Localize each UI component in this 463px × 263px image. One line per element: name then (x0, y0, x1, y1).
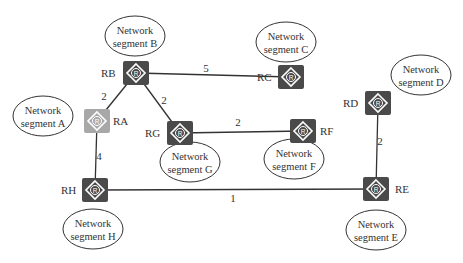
segment-label-line2: segment C (264, 44, 309, 55)
router-re: RRE (363, 177, 409, 201)
link-line (95, 189, 376, 190)
segment-ellipse (63, 209, 123, 249)
router-label: RH (61, 184, 76, 196)
link-rg-rf: 2 (180, 116, 303, 133)
router-label: RE (395, 183, 409, 195)
link-cost-label: 2 (161, 94, 167, 106)
link-cost-label: 5 (203, 62, 209, 74)
svg-text:R: R (178, 130, 183, 137)
svg-text:R: R (134, 70, 139, 77)
svg-text:R: R (376, 100, 381, 107)
network-segment-b: Networksegment B (105, 16, 165, 56)
segment-label-line1: Network (268, 31, 305, 42)
router-rh: RRH (61, 178, 108, 202)
link-cost-label: 2 (377, 135, 383, 147)
router-rf: RRF (290, 119, 333, 143)
segment-label-line2: segment D (398, 77, 444, 88)
link-line (180, 131, 303, 133)
segment-label-line1: Network (117, 25, 154, 36)
link-cost-label: 2 (235, 116, 241, 128)
router-label: RB (101, 67, 116, 79)
segment-ellipse (105, 16, 165, 56)
segment-ellipse (391, 55, 451, 95)
segment-label-line1: Network (403, 64, 440, 75)
segment-label-line1: Network (25, 105, 62, 116)
segment-label-line2: segment B (113, 38, 158, 49)
network-segment-a: Networksegment A (13, 96, 73, 136)
segment-label-line2: segment F (272, 161, 316, 172)
segment-label-line2: segment A (21, 118, 66, 129)
link-cost-label: 2 (101, 90, 107, 102)
link-rd-re: 2 (376, 103, 383, 189)
svg-text:R: R (374, 186, 379, 193)
segment-ellipse (13, 96, 73, 136)
segment-label-line1: Network (75, 218, 112, 229)
segment-label-line1: Network (276, 148, 313, 159)
router-label: RD (343, 97, 358, 109)
router-label: RA (113, 115, 128, 127)
network-segment-d: Networksegment D (391, 55, 451, 95)
network-segment-c: Networksegment C (256, 22, 316, 62)
router-label: RC (257, 71, 272, 83)
segment-ellipse (264, 139, 324, 179)
link-cost-label: 1 (230, 192, 236, 204)
network-segment-g: Networksegment G (160, 142, 220, 182)
segment-ellipse (160, 142, 220, 182)
svg-text:R: R (95, 118, 100, 125)
router-rc: RRC (257, 65, 304, 89)
router-rb: RRB (101, 61, 149, 85)
network-segment-f: Networksegment F (264, 139, 324, 179)
segment-label-line1: Network (358, 219, 395, 230)
segment-ellipse (346, 210, 406, 250)
segment-label-line2: segment E (354, 232, 398, 243)
router-rg: RRG (145, 121, 193, 145)
link-cost-label: 4 (96, 150, 102, 162)
link-rh-re: 1 (95, 189, 376, 204)
segment-ellipse (256, 22, 316, 62)
segment-label-line2: segment H (70, 231, 116, 242)
network-topology-diagram: 2522412 Networksegment ANetworksegment B… (0, 0, 463, 263)
router-ra: RRA (84, 109, 128, 133)
svg-text:R: R (289, 74, 294, 81)
router-rd: RRD (343, 91, 391, 115)
network-segment-h: Networksegment H (63, 209, 123, 249)
segments-layer: Networksegment ANetworksegment BNetworks… (13, 16, 451, 250)
network-segment-e: Networksegment E (346, 210, 406, 250)
svg-text:R: R (93, 187, 98, 194)
router-label: RG (145, 127, 160, 139)
router-label: RF (320, 125, 333, 137)
segment-label-line2: segment G (167, 164, 213, 175)
svg-text:R: R (301, 128, 306, 135)
segment-label-line1: Network (172, 151, 209, 162)
